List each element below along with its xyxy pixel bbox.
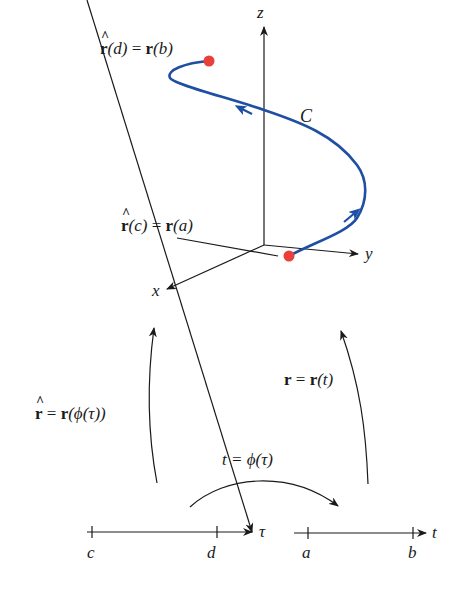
left-map-label: r = r(ϕ(τ)) (35, 405, 106, 422)
axes-3d (167, 27, 358, 289)
left-map-arrow (149, 328, 157, 483)
curve-label: C (300, 107, 312, 125)
diagram-canvas (0, 0, 466, 598)
negative-x-axis (177, 238, 278, 256)
z-axis-label: z (257, 4, 264, 21)
x-axis (167, 245, 264, 289)
tick-label-d: d (207, 544, 216, 561)
tick-label-c: c (87, 544, 95, 561)
tick-label-a: a (302, 544, 311, 561)
curve-c (169, 61, 365, 256)
phi-map-arrow (190, 481, 338, 507)
t-axis-label: t (432, 524, 437, 541)
y-axis-label: y (365, 245, 373, 262)
t-axis (294, 527, 426, 539)
curve-direction-arrow-upper (240, 108, 252, 114)
start-point (284, 251, 295, 262)
phi-map-label: t = ϕ(τ) (222, 451, 273, 468)
end-point (204, 56, 215, 67)
tick-label-b: b (408, 544, 417, 561)
end-point-label: r(d) = r(b) (100, 40, 173, 57)
right-map-label: r = r(t) (284, 371, 333, 388)
x-axis-label: x (152, 282, 160, 299)
right-map-arrow (341, 331, 368, 484)
start-point-label: r(c) = r(a) (121, 217, 193, 234)
tau-axis-label: τ (259, 523, 265, 540)
